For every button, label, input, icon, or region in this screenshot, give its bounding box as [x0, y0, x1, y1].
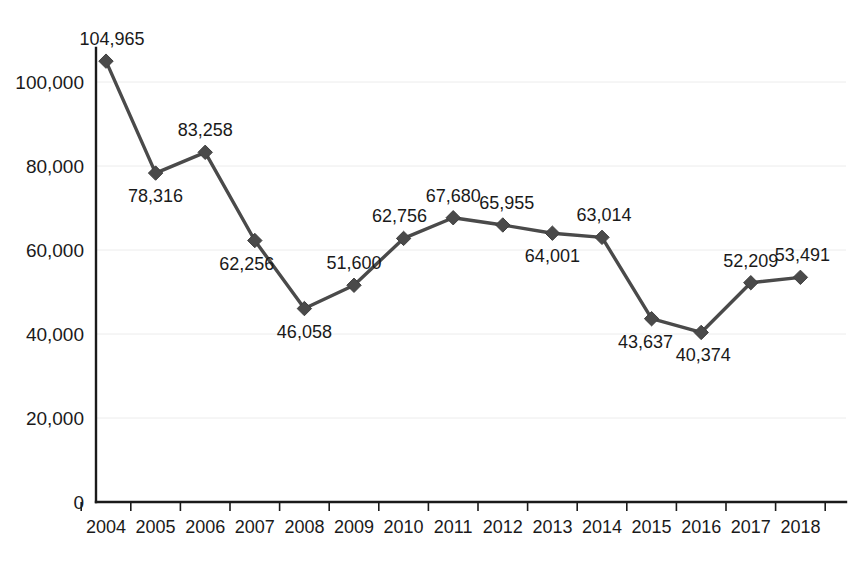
- y-axis-tick-label: 100,000: [15, 72, 84, 93]
- x-axis-tick-label: 2005: [136, 517, 176, 537]
- x-axis-tick-label: 2016: [681, 517, 721, 537]
- line-chart-figure: 020,00040,00060,00080,000100,000 2004200…: [0, 0, 856, 563]
- data-point-marker: [496, 218, 510, 232]
- data-point-label: 40,374: [676, 345, 731, 365]
- x-axis-tick-labels: 2004200520062007200820092010201120122013…: [86, 517, 820, 537]
- x-axis-tick-label: 2011: [434, 517, 473, 537]
- data-point-marker: [198, 145, 212, 159]
- data-point-label: 52,209: [723, 251, 778, 271]
- data-point-marker: [99, 54, 113, 68]
- data-point-label: 63,014: [576, 205, 631, 225]
- x-axis-tick-label: 2008: [284, 517, 324, 537]
- x-axis-tick-label: 2009: [334, 517, 374, 537]
- y-axis-tick-label: 40,000: [26, 324, 84, 345]
- y-axis-tick-labels: 020,00040,00060,00080,000100,000: [15, 72, 84, 513]
- x-axis-tick-label: 2010: [384, 517, 424, 537]
- y-axis-tick-label: 0: [73, 492, 84, 513]
- x-axis-tick-label: 2018: [780, 517, 820, 537]
- data-point-marker: [793, 270, 807, 284]
- y-axis-tick-label: 80,000: [26, 156, 84, 177]
- data-point-marker: [148, 166, 162, 180]
- y-axis-tick-label: 60,000: [26, 240, 84, 261]
- data-point-marker: [446, 211, 460, 225]
- data-point-label: 67,680: [426, 186, 481, 206]
- chart-canvas: 020,00040,00060,00080,000100,000 2004200…: [0, 0, 856, 563]
- data-point-label: 62,256: [219, 254, 274, 274]
- data-point-label: 62,756: [372, 206, 427, 226]
- y-axis-tick-label: 20,000: [26, 408, 84, 429]
- x-axis-tick-marks: [81, 502, 825, 511]
- x-axis-tick-label: 2012: [483, 517, 523, 537]
- x-axis-tick-label: 2017: [731, 517, 771, 537]
- data-point-label: 51,600: [326, 253, 381, 273]
- x-axis-tick-label: 2007: [235, 517, 275, 537]
- x-axis-tick-label: 2015: [632, 517, 672, 537]
- x-axis-tick-label: 2013: [532, 517, 572, 537]
- data-point-label: 43,637: [618, 332, 673, 352]
- data-point-label: 65,955: [479, 193, 534, 213]
- x-axis-tick-label: 2006: [185, 517, 225, 537]
- x-axis-tick-label: 2014: [582, 517, 622, 537]
- data-point-label: 83,258: [178, 120, 233, 140]
- data-point-label: 64,001: [525, 246, 580, 266]
- data-point-label: 78,316: [128, 186, 183, 206]
- x-axis-tick-label: 2004: [86, 517, 126, 537]
- data-point-label: 104,965: [79, 29, 144, 49]
- data-point-label: 46,058: [277, 322, 332, 342]
- data-point-label: 53,491: [775, 245, 830, 265]
- data-point-marker: [545, 226, 559, 240]
